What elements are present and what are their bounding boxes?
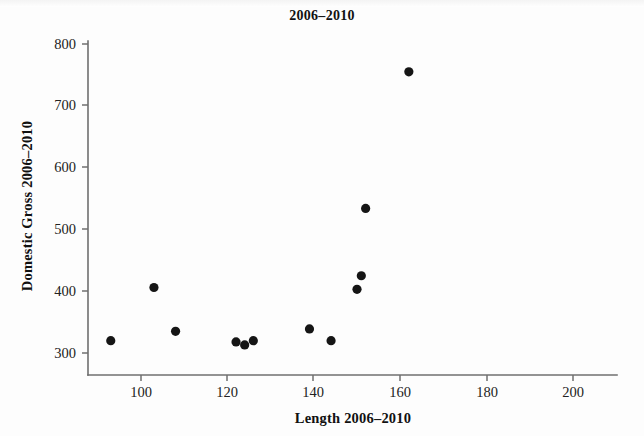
x-tick-label-180: 180 bbox=[476, 384, 498, 400]
y-tick-label-800: 800 bbox=[54, 36, 76, 52]
plot-canvas: 800 700 600 500 400 300 100 120 140 160 … bbox=[0, 0, 644, 436]
x-axis-title: Length 2006–2010 bbox=[295, 410, 411, 426]
x-axis-tick-labels: 100 120 140 160 180 200 bbox=[130, 384, 584, 400]
data-points-layer bbox=[106, 67, 413, 349]
data-point bbox=[361, 204, 370, 213]
y-tick-label-500: 500 bbox=[54, 221, 76, 237]
x-tick-label-200: 200 bbox=[562, 384, 584, 400]
data-point bbox=[106, 336, 115, 345]
y-tick-label-700: 700 bbox=[54, 97, 76, 113]
y-tick-label-600: 600 bbox=[54, 159, 76, 175]
data-point bbox=[326, 336, 335, 345]
y-tick-label-400: 400 bbox=[54, 283, 76, 299]
x-tick-label-100: 100 bbox=[130, 384, 152, 400]
y-axis-tick-labels: 800 700 600 500 400 300 bbox=[54, 36, 76, 361]
data-point bbox=[240, 340, 249, 349]
data-point bbox=[404, 67, 413, 76]
data-point bbox=[305, 324, 314, 333]
data-point bbox=[171, 327, 180, 336]
data-point bbox=[249, 336, 258, 345]
x-tick-label-120: 120 bbox=[216, 384, 238, 400]
y-axis-ticks bbox=[82, 44, 88, 353]
data-point bbox=[149, 283, 158, 292]
y-tick-label-300: 300 bbox=[54, 345, 76, 361]
x-axis-ticks bbox=[141, 375, 573, 381]
x-tick-label-140: 140 bbox=[302, 384, 324, 400]
scatter-plot-figure: 2006–2010 800 700 600 500 400 300 bbox=[0, 0, 644, 436]
y-axis-title: Domestic Gross 2006–2010 bbox=[19, 121, 35, 291]
data-point bbox=[352, 285, 361, 294]
data-point bbox=[357, 271, 366, 280]
data-point bbox=[231, 337, 240, 346]
x-tick-label-160: 160 bbox=[389, 384, 411, 400]
